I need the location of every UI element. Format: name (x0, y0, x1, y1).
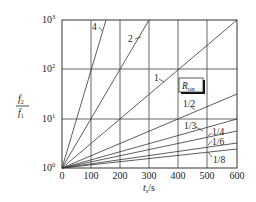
x-tick-0: 0 (60, 170, 65, 181)
y-ticks: 103 102 101 100 (42, 13, 55, 173)
y-tick-100: 102 (42, 62, 55, 74)
leader-1-8 (208, 152, 212, 157)
y-label-numerator: f2 (18, 93, 24, 105)
leader-1 (159, 79, 164, 82)
series-line-2 (62, 20, 149, 168)
x-tick-100: 100 (84, 170, 99, 181)
x-tick-300: 300 (142, 170, 157, 181)
series-label-4: 4 (92, 22, 97, 32)
series-label-1-4: 1/4 (212, 127, 224, 137)
ron-annotation: Ron (179, 78, 205, 94)
series-line-1-8 (62, 149, 237, 168)
series-line-1 (62, 20, 237, 168)
series-labels: 4 2 1 1/2 1/3 1/4 1/6 1/8 (92, 22, 225, 165)
y-tick-10: 101 (42, 112, 55, 124)
series-label-1-2: 1/2 (183, 99, 195, 109)
series-line-4 (62, 20, 106, 168)
y-label-denominator: f1 (18, 107, 24, 119)
x-ticks: 0 100 200 300 400 500 600 (60, 170, 245, 181)
y-axis-label: f2 f1 (16, 93, 29, 119)
x-tick-200: 200 (113, 170, 128, 181)
series-label-1-3: 1/3 (184, 121, 196, 131)
series-label-2: 2 (128, 34, 133, 44)
series-label-1: 1 (154, 73, 159, 83)
series-label-1-6: 1/6 (212, 137, 224, 147)
series-line-1-2 (62, 94, 237, 168)
series-line-1-4 (62, 131, 237, 168)
chart: 4 2 1 1/2 1/3 1/4 1/6 1/8 Ron 103 102 10… (0, 0, 256, 202)
series-line-1-3 (62, 119, 237, 168)
leader-4 (99, 27, 102, 31)
x-tick-400: 400 (171, 170, 186, 181)
x-tick-500: 500 (200, 170, 215, 181)
y-tick-1: 100 (42, 161, 55, 173)
y-tick-1000: 103 (42, 13, 55, 25)
x-tick-600: 600 (230, 170, 245, 181)
series-label-1-8: 1/8 (213, 155, 225, 165)
x-axis-label: ts/s (143, 182, 155, 194)
series-lines (62, 20, 237, 168)
